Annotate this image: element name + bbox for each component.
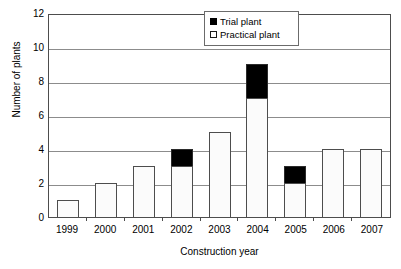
- y-axis-tick-label: 2: [18, 179, 44, 189]
- bar-slot-2001: [125, 15, 163, 217]
- bar-2007: [360, 149, 382, 217]
- y-axis-tick-labels: 024681012: [18, 14, 44, 218]
- bar-segment-practical-2005: [284, 183, 306, 217]
- bar-segment-practical-2003: [209, 132, 231, 217]
- bar-segment-practical-1999: [57, 200, 79, 217]
- bar-2001: [133, 166, 155, 217]
- legend-label-practical-plant: Practical plant: [220, 29, 280, 40]
- x-axis-title: Construction year: [48, 246, 391, 257]
- chart-legend: Trial plant Practical plant: [204, 11, 299, 46]
- bar-segment-trial-2004: [246, 64, 268, 98]
- y-axis-tick-label: 8: [18, 77, 44, 87]
- bar-segment-trial-2002: [171, 149, 193, 166]
- x-axis-tick: [124, 217, 125, 221]
- x-axis-tick-labels: 199920002001200220032004200520062007: [48, 224, 391, 235]
- x-axis-tick: [351, 217, 352, 221]
- bar-2006: [322, 149, 344, 217]
- x-axis-tick-label: 2004: [239, 224, 277, 235]
- bar-slot-2006: [314, 15, 352, 217]
- x-axis-tick-label: 2002: [162, 224, 200, 235]
- bar-slot-2000: [87, 15, 125, 217]
- outlined-white-square-icon: [210, 31, 217, 38]
- bar-2000: [95, 183, 117, 217]
- chart-container: Number of plants 024681012 1999200020012…: [0, 0, 401, 269]
- bar-segment-trial-2005: [284, 166, 306, 183]
- bar-segment-practical-2006: [322, 149, 344, 217]
- bar-2005: [284, 166, 306, 217]
- bar-slot-2007: [352, 15, 390, 217]
- legend-label-trial-plant: Trial plant: [220, 16, 261, 27]
- y-axis-tick-label: 6: [18, 111, 44, 121]
- bar-segment-practical-2002: [171, 166, 193, 217]
- filled-black-square-icon: [210, 18, 217, 25]
- x-axis-tick-label: 2006: [315, 224, 353, 235]
- bar-1999: [57, 200, 79, 217]
- x-axis-tick-label: 2005: [277, 224, 315, 235]
- bar-slot-2002: [163, 15, 201, 217]
- bar-segment-practical-2000: [95, 183, 117, 217]
- x-axis-tick: [237, 217, 238, 221]
- x-axis-tick: [162, 217, 163, 221]
- x-axis-tick: [200, 217, 201, 221]
- bar-2004: [246, 64, 268, 217]
- x-axis-tick-label: 2000: [86, 224, 124, 235]
- x-axis-tick: [86, 217, 87, 221]
- bar-segment-practical-2004: [246, 98, 268, 217]
- bar-segment-practical-2001: [133, 166, 155, 217]
- legend-item-trial-plant: Trial plant: [210, 15, 293, 28]
- y-axis-tick-label: 12: [18, 9, 44, 19]
- x-axis-tick-label: 2003: [200, 224, 238, 235]
- x-axis-tick-label: 1999: [48, 224, 86, 235]
- y-axis-tick-label: 10: [18, 43, 44, 53]
- bar-2002: [171, 149, 193, 217]
- x-axis-tick-label: 2001: [124, 224, 162, 235]
- x-axis-tick: [313, 217, 314, 221]
- y-axis-tick-label: 4: [18, 145, 44, 155]
- bar-segment-practical-2007: [360, 149, 382, 217]
- bar-2003: [209, 132, 231, 217]
- bar-slot-1999: [49, 15, 87, 217]
- x-axis-tick-label: 2007: [353, 224, 391, 235]
- y-axis-tick-label: 0: [18, 213, 44, 223]
- x-axis-tick: [275, 217, 276, 221]
- legend-item-practical-plant: Practical plant: [210, 28, 293, 41]
